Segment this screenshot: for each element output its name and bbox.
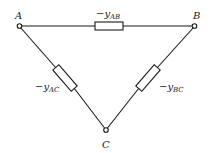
admittance-label-ab: −yAB — [96, 8, 120, 21]
node-c-label: C — [102, 139, 110, 150]
delta-admittance-diagram: A B C −yAB −yAC −yBC — [0, 0, 210, 153]
wire-yac-to-c — [74, 88, 105, 128]
branch-ab — [21, 22, 193, 30]
wire-a-to-yac — [21, 28, 57, 69]
wire-ybc-to-c — [108, 88, 140, 128]
node-b-label: B — [192, 10, 200, 21]
admittance-label-ac: −yAC — [35, 81, 60, 94]
node-a-label: A — [14, 10, 22, 21]
branch-ac — [21, 28, 105, 129]
admittance-label-bc: −yBC — [159, 81, 184, 94]
wire-b-to-ybc — [157, 28, 194, 69]
admittance-box-ab — [95, 22, 123, 30]
branch-bc — [108, 28, 194, 129]
admittance-box-bc — [136, 65, 160, 91]
node-a-terminal — [17, 24, 22, 29]
node-b-terminal — [192, 24, 197, 29]
node-c-terminal — [104, 128, 109, 133]
